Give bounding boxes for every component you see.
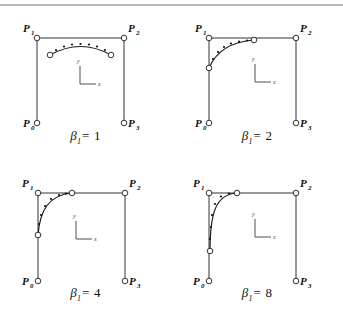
label-p2-subscript: 2 — [135, 29, 140, 37]
label-p2: P — [128, 22, 135, 34]
control-point-markers — [206, 35, 299, 126]
caption-beta-subscript: 1 — [248, 294, 252, 303]
spline-curve — [38, 193, 72, 235]
caption-equals: = — [253, 128, 262, 143]
control-point-p2 — [121, 35, 127, 41]
axis-indicator — [80, 66, 96, 84]
control-point-p1 — [34, 35, 40, 41]
label-p2: P — [129, 177, 136, 189]
control-point-markers — [35, 190, 128, 284]
panel-caption-beta-1: β1= 1 — [0, 128, 171, 146]
caption-equals: = — [81, 128, 90, 143]
panel-beta-1: P 0 P 1 P 2 P 3 y x β1= 1 — [0, 8, 171, 163]
control-point-p2 — [122, 190, 128, 196]
axis-x-label: x — [97, 81, 101, 87]
caption-equals: = — [81, 285, 90, 300]
figure-canvas: P 0 P 1 P 2 P 3 y x β1= 1 — [0, 0, 343, 317]
control-polygon — [209, 193, 296, 281]
control-polygon — [38, 193, 125, 281]
panel-beta-8: P 0 P 1 P 2 P 3 y x β1= 8 — [171, 163, 343, 317]
control-point-p3 — [121, 120, 127, 126]
axis-indicator — [255, 64, 271, 82]
control-point-p1 — [35, 190, 41, 196]
caption-value: 8 — [265, 285, 273, 300]
curve-endpoint-markers — [47, 52, 114, 58]
caption-value: 1 — [93, 128, 101, 143]
label-p1-subscript: 1 — [203, 29, 207, 37]
axis-y-label: y — [72, 213, 76, 219]
label-p2-subscript: 2 — [136, 184, 141, 192]
caption-equals: = — [253, 285, 262, 300]
label-p1: P — [193, 177, 200, 189]
curve-endpoint-end — [108, 52, 114, 58]
control-point-p0 — [34, 120, 40, 126]
control-polygon — [37, 38, 124, 123]
caption-beta-symbol: β — [70, 285, 77, 300]
caption-value: 4 — [93, 285, 101, 300]
top-divider-rule — [0, 4, 343, 6]
panel-caption-beta-2: β1= 2 — [171, 128, 343, 146]
spline-curve — [50, 47, 111, 56]
axis-x-label: x — [272, 79, 276, 85]
caption-beta-subscript: 1 — [248, 137, 252, 146]
curve-endpoint-start — [206, 65, 212, 71]
curve-sample-dots — [38, 192, 67, 225]
control-point-p0 — [206, 120, 212, 126]
curve-endpoint-end — [251, 37, 257, 43]
control-point-p2 — [293, 190, 299, 196]
control-point-markers — [206, 190, 299, 284]
control-point-p1 — [206, 190, 212, 196]
axis-y-label: y — [251, 211, 255, 217]
label-p2-subscript: 2 — [307, 29, 312, 37]
label-p1: P — [23, 22, 30, 34]
axis-y-label: y — [76, 58, 80, 64]
label-p1-subscript: 1 — [30, 184, 34, 192]
label-p2-subscript: 2 — [307, 184, 312, 192]
axis-indicator — [255, 219, 271, 237]
panel-grid: P 0 P 1 P 2 P 3 y x β1= 1 — [0, 8, 343, 317]
control-point-p3 — [293, 120, 299, 126]
curve-sample-dots — [209, 192, 230, 240]
curve-endpoint-start — [207, 248, 213, 254]
control-point-markers — [34, 35, 127, 126]
label-p1-subscript: 1 — [201, 184, 205, 192]
control-point-p0 — [35, 278, 41, 284]
panel-caption-beta-8: β1= 8 — [171, 285, 343, 303]
control-point-p3 — [293, 278, 299, 284]
control-point-p3 — [122, 278, 128, 284]
caption-value: 2 — [265, 128, 273, 143]
panel-beta-2: P 0 P 1 P 2 P 3 y x β1= 2 — [171, 8, 343, 163]
label-p2: P — [300, 22, 307, 34]
curve-sample-dots — [212, 39, 248, 60]
label-p1: P — [22, 177, 29, 189]
curve-endpoint-markers — [206, 37, 257, 71]
axis-x-label: x — [272, 234, 276, 240]
control-point-p0 — [206, 278, 212, 284]
caption-beta-symbol: β — [70, 128, 77, 143]
axis-x-label: x — [93, 236, 97, 242]
spline-curve — [210, 193, 237, 251]
label-p1: P — [195, 22, 202, 34]
panel-beta-4: P 0 P 1 P 2 P 3 y x β1= 4 — [0, 163, 171, 317]
panel-caption-beta-4: β1= 4 — [0, 285, 171, 303]
control-point-p1 — [206, 35, 212, 41]
label-p1-subscript: 1 — [31, 29, 35, 37]
curve-endpoint-start — [47, 52, 53, 58]
curve-endpoint-end — [69, 190, 75, 196]
label-p2: P — [300, 177, 307, 189]
axis-indicator — [76, 221, 92, 239]
axis-y-label: y — [251, 56, 255, 62]
control-point-p2 — [293, 35, 299, 41]
curve-endpoint-start — [35, 232, 41, 238]
curve-endpoint-end — [234, 190, 240, 196]
